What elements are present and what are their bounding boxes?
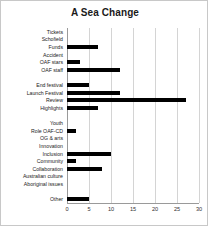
category-label: Tickets <box>47 29 63 35</box>
bar-series <box>67 28 199 203</box>
x-tick-label: 5 <box>79 206 99 212</box>
category-label: Innovation <box>39 143 63 149</box>
bar <box>67 159 76 163</box>
category-label: Launch Festival <box>27 90 63 96</box>
category-label: Aboriginal issues <box>24 181 63 187</box>
plot-area <box>67 28 199 203</box>
bar <box>67 152 111 156</box>
y-axis-category-labels: TicketsSchofieldFundsAccidentOAF starsOA… <box>1 28 65 203</box>
x-tick-label: 25 <box>167 206 187 212</box>
x-tick-label: 15 <box>123 206 143 212</box>
category-label: Highlights <box>40 105 63 111</box>
bar <box>67 60 80 64</box>
bar <box>67 45 98 49</box>
bar <box>67 197 89 201</box>
category-label: Role OAF-CD <box>31 128 63 134</box>
chart-container: A Sea Change TicketsSchofieldFundsAccide… <box>0 0 208 226</box>
category-label: End festival <box>36 82 63 88</box>
bar <box>67 98 186 102</box>
category-label: OAF staff <box>41 67 63 73</box>
category-label: Australian culture <box>23 173 63 179</box>
category-label: Accident <box>43 52 63 58</box>
category-label: Inclusion <box>43 151 63 157</box>
x-tick-label: 0 <box>57 206 77 212</box>
x-tick-label: 30 <box>189 206 208 212</box>
bar <box>67 68 120 72</box>
category-label: Other <box>50 196 63 202</box>
category-label: Review <box>46 97 63 103</box>
x-axis-line <box>67 203 199 204</box>
category-label: OAF stars <box>40 59 63 65</box>
category-label: Community <box>37 158 63 164</box>
x-tick-label: 20 <box>145 206 165 212</box>
bar <box>67 129 76 133</box>
x-tick-label: 10 <box>101 206 121 212</box>
category-label: Collaboration <box>32 166 63 172</box>
x-axis-tick-labels: 051015202530 <box>1 206 208 218</box>
bar <box>67 91 120 95</box>
category-label: OG & arts <box>40 135 63 141</box>
category-label: Schofield <box>42 36 63 42</box>
gridline-30 <box>199 28 200 203</box>
chart-title: A Sea Change <box>1 7 208 18</box>
bar <box>67 106 98 110</box>
category-label: Youth <box>50 120 63 126</box>
bar <box>67 83 89 87</box>
bar <box>67 167 102 171</box>
category-label: Funds <box>49 44 63 50</box>
